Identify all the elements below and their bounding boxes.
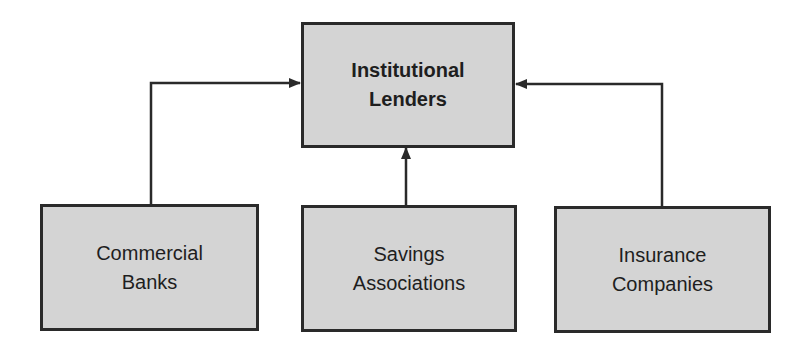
- node-label: Institutional Lenders: [351, 56, 464, 114]
- edge-insurance-companies: [516, 84, 662, 207]
- node-label: Insurance Companies: [612, 241, 713, 299]
- node-insurance-companies: Insurance Companies: [554, 206, 771, 333]
- diagram-canvas: Institutional Lenders Commercial Banks S…: [0, 0, 809, 355]
- node-institutional-lenders: Institutional Lenders: [301, 22, 515, 148]
- node-label: Savings Associations: [353, 240, 465, 298]
- node-label: Commercial Banks: [96, 239, 203, 297]
- edge-commercial-banks: [151, 83, 300, 205]
- node-commercial-banks: Commercial Banks: [40, 204, 259, 331]
- node-savings-associations: Savings Associations: [301, 205, 517, 332]
